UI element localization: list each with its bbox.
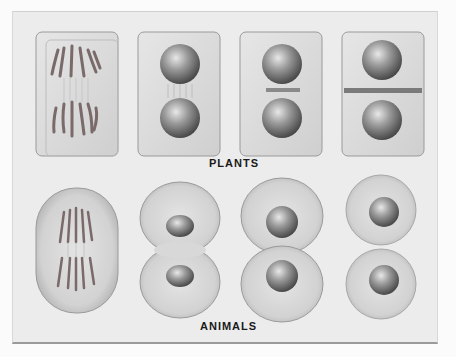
plant-anaphase [36, 32, 118, 156]
animals-label: ANIMALS [200, 320, 257, 332]
animal-late-cleavage [241, 178, 323, 322]
animal-telophase-furrowing [140, 182, 220, 318]
animal-daughter-cells [346, 175, 416, 319]
plants-label: PLANTS [209, 157, 259, 169]
plant-cell-plate-forming [240, 32, 322, 156]
plant-cell-plate-complete [342, 32, 424, 156]
cell-division-illustration [0, 0, 456, 357]
animal-anaphase [36, 188, 118, 313]
plant-telophase [138, 32, 220, 156]
